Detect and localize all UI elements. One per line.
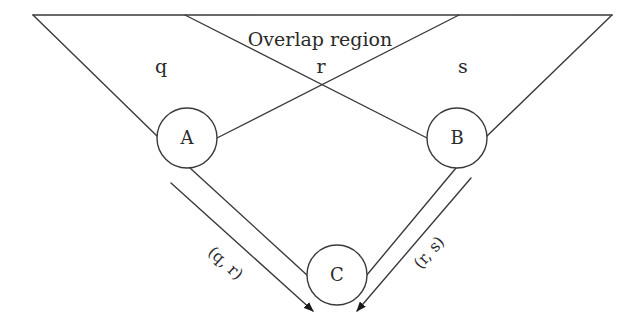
q-r-arrow — [171, 183, 313, 311]
overlap-region-title: Overlap region — [248, 28, 393, 50]
region-q-label: q — [155, 55, 167, 77]
r-s-arrow — [357, 178, 471, 311]
b-right-boundary-line — [487, 15, 612, 136]
region-s-label: s — [458, 55, 468, 77]
a-left-boundary-line — [33, 15, 157, 136]
r-s-edge-label: (r, s) — [410, 232, 449, 272]
region-r-label: r — [316, 55, 326, 77]
node-a-label: A — [180, 127, 195, 148]
node-c-label: C — [330, 264, 344, 285]
node-c: C — [307, 245, 367, 305]
node-b: B — [427, 108, 487, 168]
node-b-label: B — [450, 127, 463, 148]
q-r-edge-label: (q, r) — [204, 242, 247, 283]
node-a: A — [157, 108, 217, 168]
overlap-diagram: A B C Overlap region q r s (q, r) (r, s) — [0, 0, 640, 335]
a-to-c-link — [190, 168, 308, 276]
